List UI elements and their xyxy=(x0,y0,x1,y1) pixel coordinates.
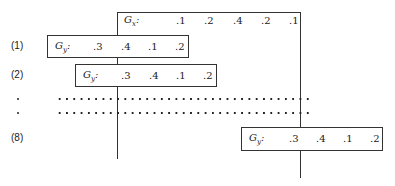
gy-value: .2 xyxy=(203,70,213,81)
gx-label: Gx: xyxy=(124,14,139,28)
ellipsis-bullet-2 xyxy=(17,112,19,114)
gx-box-top xyxy=(117,12,301,13)
gx-value: .2 xyxy=(261,15,271,26)
ellipsis-bullet-1 xyxy=(17,98,19,100)
gy-value: .1 xyxy=(148,41,158,52)
step-label-1: (1) xyxy=(11,40,23,51)
step-label-2: (2) xyxy=(11,69,23,80)
gy-value: .2 xyxy=(175,41,185,52)
gx-value: .4 xyxy=(233,15,243,26)
gy-box-step-2: Gy: .3 .4 .1 .2 xyxy=(75,64,217,87)
ellipsis-dotted-line-1 xyxy=(56,98,314,100)
gy-label: Gy: xyxy=(55,40,70,54)
gy-value: .1 xyxy=(343,133,353,144)
gy-label: Gy: xyxy=(249,132,264,146)
gy-value: .4 xyxy=(316,133,326,144)
gy-box-step-1: Gy: .3 .4 .1 .2 xyxy=(47,35,189,58)
gy-value: .3 xyxy=(289,133,299,144)
gy-box-step-8: Gy: .3 .4 .1 .2 xyxy=(241,127,383,151)
gy-value: .3 xyxy=(93,41,103,52)
gy-label: Gy: xyxy=(83,69,98,83)
gx-value: .1 xyxy=(289,15,299,26)
gx-value: .2 xyxy=(204,15,214,26)
gy-value: .3 xyxy=(121,70,131,81)
gx-value: .1 xyxy=(176,15,186,26)
step-label-8: (8) xyxy=(11,132,23,143)
ellipsis-dotted-line-2 xyxy=(56,112,314,114)
gy-value: .2 xyxy=(370,133,380,144)
gx-right-boundary xyxy=(300,12,301,178)
gy-value: .4 xyxy=(149,70,159,81)
gy-value: .1 xyxy=(176,70,186,81)
gy-value: .4 xyxy=(121,41,131,52)
